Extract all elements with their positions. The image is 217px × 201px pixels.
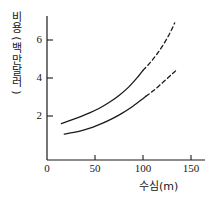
- y-axis-label-char: ): [13, 91, 22, 95]
- y-tick-marks: [47, 40, 53, 116]
- x-tick-label-150: 150: [178, 162, 204, 174]
- upper-curve-dashed: [143, 23, 175, 71]
- x-axis-label: 수심(m): [139, 177, 178, 193]
- x-tick-marks: [95, 155, 191, 160]
- lower-curve-dashed: [146, 71, 176, 96]
- x-tick-label-0: 0: [34, 162, 60, 174]
- y-tick-label-6: 6: [28, 33, 42, 45]
- upper-curve-solid: [61, 70, 143, 123]
- y-tick-label-4: 4: [28, 71, 42, 83]
- x-tick-label-50: 50: [82, 162, 108, 174]
- y-axis-label-char: 백: [12, 43, 22, 54]
- x-tick-label-100: 100: [130, 162, 156, 174]
- y-axis-label-char: 용: [12, 23, 22, 34]
- y-axis-label-char: 러: [12, 77, 22, 88]
- y-tick-label-2: 2: [28, 109, 42, 121]
- data-series-layer: [61, 23, 175, 134]
- y-axis-label-char: (: [13, 37, 22, 41]
- y-axis-label: 비 용 ( 백 만 달 러 ): [6, 12, 28, 97]
- lower-curve-solid: [64, 96, 146, 134]
- chart-figure: 비 용 ( 백 만 달 러 ) 수심(m) 6 4 2 0 50 100 150: [0, 0, 217, 201]
